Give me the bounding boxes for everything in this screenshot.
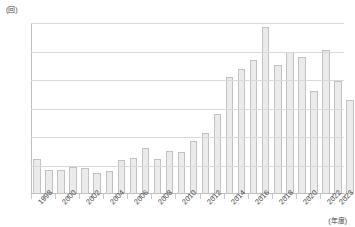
- bar: [154, 159, 161, 194]
- x-axis-tick-mark: [248, 194, 249, 199]
- x-axis-tick-mark: [151, 194, 152, 199]
- bar: [322, 50, 329, 194]
- x-axis-tick-mark: [175, 194, 176, 199]
- x-axis-tick-mark: [55, 194, 56, 199]
- bar: [238, 69, 245, 194]
- bar: [274, 65, 281, 194]
- bar: [310, 91, 317, 194]
- bar: [57, 170, 64, 194]
- bar: [142, 148, 149, 194]
- bar: [130, 158, 137, 194]
- gridline: [31, 137, 344, 138]
- bar: [202, 133, 209, 194]
- x-axis-tick-mark: [320, 194, 321, 199]
- gridline: [31, 52, 344, 53]
- x-axis-tick-mark: [103, 194, 104, 199]
- bar: [226, 77, 233, 194]
- bar: [346, 100, 353, 194]
- x-axis-tick-mark: [127, 194, 128, 199]
- x-axis-tick-mark: [79, 194, 80, 199]
- x-axis-tick-mark: [224, 194, 225, 199]
- x-axis-tick-mark: [296, 194, 297, 199]
- bar: [190, 141, 197, 194]
- bar: [106, 171, 113, 194]
- bar: [81, 168, 88, 194]
- bar: [214, 114, 221, 194]
- plot-area: [31, 23, 344, 194]
- gridline: [31, 166, 344, 167]
- x-axis-tick-mark: [200, 194, 201, 199]
- x-axis-caption: (年度): [328, 215, 347, 225]
- x-axis-labels: 1998200020022004200620082010201220142016…: [0, 0, 350, 33]
- bar: [33, 159, 40, 194]
- x-axis-tick-mark: [31, 194, 32, 199]
- bar: [286, 52, 293, 194]
- bar: [178, 152, 185, 194]
- bar: [298, 57, 305, 195]
- gridline: [31, 80, 344, 81]
- x-axis-tick-mark: [272, 194, 273, 199]
- gridline: [31, 109, 344, 110]
